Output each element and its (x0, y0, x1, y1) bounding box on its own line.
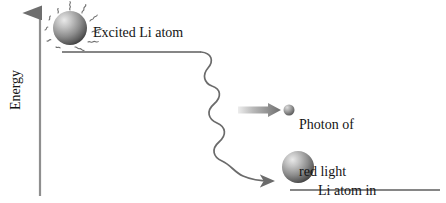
photon-emission-arrow (238, 103, 281, 117)
wavy-transition-arrow (201, 52, 270, 181)
excited-li-atom-sphere (53, 11, 87, 45)
excited-atom-label: Excited Li atom (93, 25, 183, 41)
diagram-canvas: Excited Li atom Photon of red light emit… (0, 0, 446, 203)
energy-axis-label: Energy (8, 60, 24, 120)
lower-label-line-1: Li atom in (318, 183, 420, 199)
emitted-photon-sphere (284, 105, 295, 116)
lower-energy-atom-label: Li atom in lower energy state (318, 152, 420, 203)
photon-label-line-1: Photon of (299, 117, 354, 133)
